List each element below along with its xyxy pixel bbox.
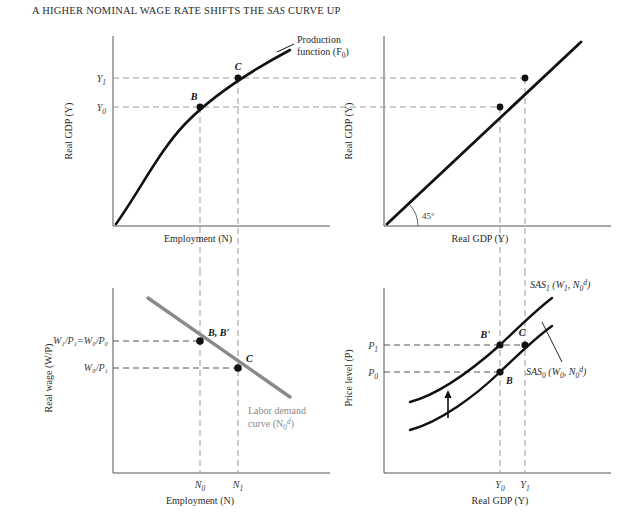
- y-axis-label-sas: Price level (P): [343, 349, 355, 406]
- point-c-label-production: C: [235, 61, 242, 72]
- y-axis-label-production: Real GDP (Y): [63, 103, 75, 160]
- ytick-y0-production: Y0: [97, 102, 107, 116]
- xtick-n0-labor: N0: [194, 479, 206, 493]
- point-b-label-production: B: [190, 91, 198, 102]
- point-b-label-sas: B: [505, 375, 513, 386]
- ytick-p0-sas: P0: [367, 367, 378, 381]
- point-y1-45: [522, 75, 529, 82]
- point-b-sas: [496, 368, 503, 375]
- forty-five-degree-line: [387, 42, 581, 224]
- point-c-label-labor: C: [246, 353, 253, 364]
- angle-label-45: 45°: [422, 211, 435, 221]
- point-bprime-label-sas: B': [480, 329, 491, 340]
- point-c-production: [235, 75, 242, 82]
- x-axis-label-sas: Real GDP (Y): [472, 495, 529, 507]
- panel-sas: B' C B P1 P0 Y0 Y1 Price level (P) Real …: [330, 270, 623, 525]
- angle-arc-45: [410, 205, 418, 226]
- panel-labor-demand: B, B' C W₁/P₁=W₀/P₀ W₀/P₁ N0 N1 Real wag…: [0, 270, 330, 525]
- callout-line-production: [277, 44, 294, 52]
- ytick-p1-sas: P1: [367, 340, 378, 354]
- ytick-y1-production: Y1: [97, 73, 106, 87]
- point-y0-45: [497, 104, 504, 111]
- x-axis-label-labor: Employment (N): [166, 495, 234, 507]
- x-axis-label-production: Employment (N): [164, 233, 232, 245]
- panel-production-function: B C Y1 Y0 Real GDP (Y) Employment (N) Pr…: [0, 0, 330, 270]
- y-axis-label-labor: Real wage (W/P): [43, 344, 55, 413]
- sas1-label: SAS1 (W1, N0d): [530, 278, 591, 293]
- labor-demand-label-line2: curve (N0d): [248, 417, 294, 432]
- point-b-labor: [196, 337, 204, 345]
- sas0-curve: [410, 326, 552, 430]
- labor-demand-curve: [148, 298, 290, 397]
- point-bprime-sas: [496, 341, 503, 348]
- x-axis-label-45: Real GDP (Y): [452, 233, 509, 245]
- callout-line-sas0: [542, 322, 562, 362]
- ytick-w0p1-labor: W₀/P₁: [84, 362, 108, 373]
- xtick-y1-sas: Y1: [520, 479, 529, 493]
- point-c-labor: [234, 364, 242, 372]
- sas0-label: SAS0 (W0, N0d): [526, 365, 587, 380]
- point-c-label-sas: C: [519, 327, 526, 338]
- xtick-n1-labor: N1: [232, 479, 243, 493]
- point-c-sas: [521, 341, 528, 348]
- xtick-y0-sas: Y0: [495, 479, 505, 493]
- y-axis-label-45: Real GDP (Y): [343, 103, 355, 160]
- labor-demand-label-line1: Labor demand: [248, 405, 306, 416]
- point-b-production: [197, 104, 204, 111]
- panel-forty-five-degree: 45° Real GDP (Y) Real GDP (Y): [330, 0, 623, 270]
- ytick-w1p1-labor: W₁/P₁=W₀/P₀: [53, 335, 109, 346]
- point-b-label-labor: B, B': [207, 327, 229, 338]
- sas1-curve: [410, 298, 552, 402]
- production-function-curve: [116, 50, 290, 224]
